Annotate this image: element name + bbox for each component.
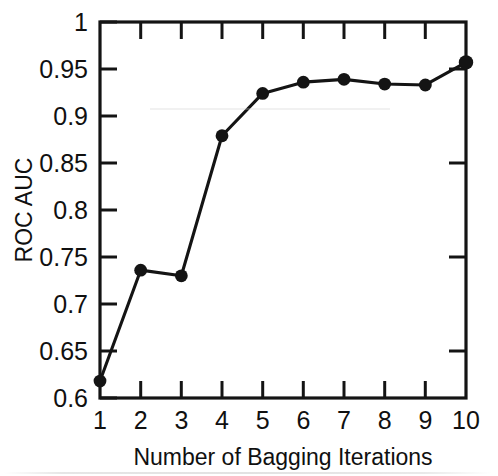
data-point (459, 55, 473, 69)
x-tick-label: 8 (378, 406, 392, 434)
data-point (256, 87, 269, 100)
x-tick-label: 1 (93, 406, 107, 434)
data-point (297, 76, 310, 89)
x-tick-label: 3 (174, 406, 188, 434)
y-tick-label: 0.9 (53, 102, 88, 130)
scan-artifact-bottom (4, 472, 492, 474)
data-point (216, 129, 229, 142)
x-tick-label: 7 (337, 406, 351, 434)
chart-figure: 0.60.650.70.750.80.850.90.951 1234567891… (0, 0, 498, 476)
x-tick-label: 4 (215, 406, 229, 434)
data-point (94, 375, 107, 388)
x-axis-title: Number of Bagging Iterations (133, 444, 432, 470)
y-tick-label: 0.95 (39, 55, 88, 83)
data-point (338, 73, 351, 86)
data-point (175, 269, 188, 282)
y-tick-label: 0.7 (53, 290, 88, 318)
x-tick-label: 9 (418, 406, 432, 434)
y-tick-label: 0.75 (39, 243, 88, 271)
x-tick-label: 5 (256, 406, 270, 434)
data-point (378, 78, 391, 91)
data-point (134, 264, 147, 277)
y-tick-label: 0.8 (53, 196, 88, 224)
x-tick-label: 6 (296, 406, 310, 434)
y-tick-label: 0.85 (39, 149, 88, 177)
y-tick-label: 0.65 (39, 337, 88, 365)
scan-artifact-mid (150, 108, 390, 110)
data-point (419, 79, 432, 92)
roc-auc-line-chart: 0.60.650.70.750.80.850.90.951 1234567891… (0, 0, 498, 476)
x-tick-label: 2 (134, 406, 148, 434)
y-axis-title: ROC AUC (11, 158, 37, 263)
y-tick-label: 0.6 (53, 384, 88, 412)
x-tick-label: 10 (452, 406, 480, 434)
y-tick-label: 1 (74, 8, 88, 36)
